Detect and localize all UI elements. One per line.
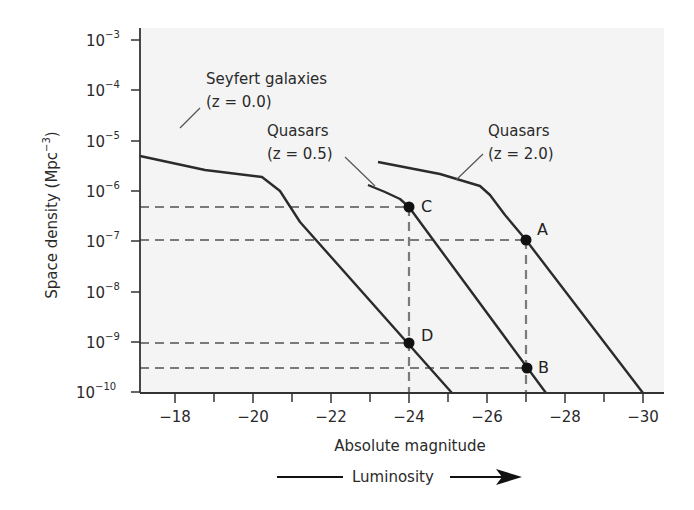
x-tick-label: −20 <box>237 408 269 426</box>
x-tick-label: −22 <box>315 408 347 426</box>
y-ticks <box>131 40 140 392</box>
label-seyfert-line2: (z = 0.0) <box>206 93 272 111</box>
y-tick-label: 10−8 <box>86 281 120 302</box>
label-quasars-z05-line1: Quasars <box>267 122 329 140</box>
point-c <box>404 202 415 213</box>
label-quasars-z20-line2: (z = 2.0) <box>488 145 554 163</box>
luminosity-arrow: Luminosity <box>277 468 522 486</box>
point-d <box>404 338 415 349</box>
point-label-b: B <box>538 358 549 377</box>
y-tick-labels: 10−3 10−4 10−5 10−6 10−7 10−8 10−9 10−10 <box>76 29 120 402</box>
y-tick-label: 10−10 <box>76 381 116 402</box>
x-axis-title: Absolute magnitude <box>334 437 485 455</box>
y-tick-label: 10−6 <box>86 180 120 201</box>
point-label-a: A <box>537 220 548 239</box>
x-tick-label: −18 <box>159 408 191 426</box>
y-tick-label: 10−3 <box>86 29 120 50</box>
x-ticks <box>175 393 643 403</box>
point-label-d: D <box>421 326 433 345</box>
y-tick-label: 10−9 <box>86 331 120 352</box>
x-tick-labels: −18 −20 −22 −24 −26 −28 −30 <box>159 408 659 426</box>
point-b <box>522 363 533 374</box>
x-tick-label: −26 <box>471 408 503 426</box>
y-tick-label: 10−7 <box>86 230 120 251</box>
label-seyfert-line1: Seyfert galaxies <box>206 70 327 88</box>
luminosity-label: Luminosity <box>352 468 434 486</box>
y-tick-label: 10−4 <box>86 79 120 100</box>
point-a <box>521 235 532 246</box>
y-axis-title: Space density (Mpc−3) <box>41 131 61 298</box>
x-tick-label: −28 <box>549 408 581 426</box>
label-quasars-z05-line2: (z = 0.5) <box>267 145 333 163</box>
label-quasars-z20-line1: Quasars <box>488 122 550 140</box>
point-label-c: C <box>421 197 432 216</box>
chart: A B C D Seyfert galaxies (z = 0.0) Quasa… <box>0 0 694 510</box>
y-tick-label: 10−5 <box>86 130 120 151</box>
x-tick-label: −30 <box>627 408 659 426</box>
x-tick-label: −24 <box>393 408 425 426</box>
